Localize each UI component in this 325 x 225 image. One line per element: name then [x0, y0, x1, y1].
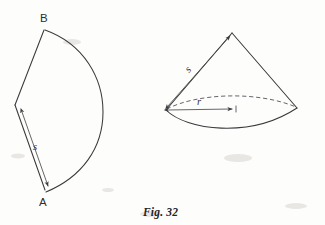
cone-figure: s r	[166, 33, 297, 128]
sector-arc	[45, 30, 103, 192]
cone-slant-label: s	[182, 64, 193, 74]
sector-edge-upper	[15, 30, 44, 105]
cone-base-front-arc	[166, 108, 297, 128]
figure-caption: Fig. 32	[142, 206, 178, 219]
cone-right-slant	[232, 33, 297, 108]
figure-page: B A s s r Fig. 32	[0, 0, 325, 225]
cone-radius-dimension-line	[168, 109, 232, 110]
paper-specks	[11, 39, 307, 217]
sector-edge-lower	[15, 105, 45, 190]
vertex-b-label: B	[40, 12, 48, 24]
vertex-a-label: A	[39, 196, 47, 208]
sector-figure: B A s	[15, 12, 103, 208]
figure-canvas: B A s s r Fig. 32	[0, 0, 325, 225]
sector-slant-label: s	[33, 141, 37, 152]
cone-base-rear-arc	[167, 96, 296, 109]
cone-radius-label: r	[197, 96, 202, 107]
